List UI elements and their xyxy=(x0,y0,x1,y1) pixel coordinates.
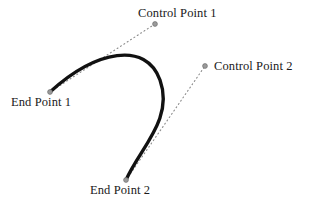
marker-control-point-1[interactable] xyxy=(153,22,158,27)
marker-control-point-2[interactable] xyxy=(203,64,208,69)
label-end-point-2: End Point 2 xyxy=(90,184,150,197)
marker-end-point-2[interactable] xyxy=(124,178,129,183)
bezier-curve xyxy=(50,55,163,180)
label-control-point-2: Control Point 2 xyxy=(214,60,293,73)
bezier-diagram-canvas: Control Point 1 Control Point 2 End Poin… xyxy=(0,0,310,210)
tangent-line-endpoint2-to-controlpoint2 xyxy=(126,66,205,180)
label-end-point-1: End Point 1 xyxy=(11,96,71,109)
label-control-point-1: Control Point 1 xyxy=(138,7,217,20)
marker-end-point-1[interactable] xyxy=(48,90,53,95)
